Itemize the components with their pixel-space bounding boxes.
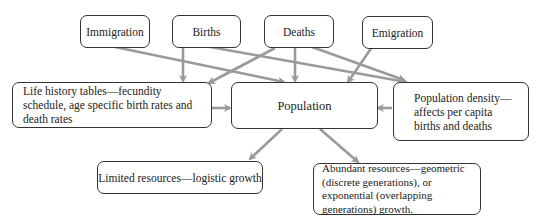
node-label: Limited resources—logistic growth (98, 171, 262, 185)
edge-population-abundant (320, 129, 358, 162)
node-emigration: Emigration (362, 16, 433, 49)
node-deaths: Deaths (264, 15, 334, 48)
edge-population-limited (250, 129, 282, 159)
edge-births-density (210, 47, 406, 82)
node-label: Emigration (372, 26, 424, 40)
edge-immigration-population (115, 47, 284, 82)
node-immigration: Immigration (80, 15, 150, 48)
node-label: Abundant resources—geometric (discrete g… (322, 162, 472, 216)
node-label: Deaths (283, 25, 315, 39)
node-births: Births (172, 15, 241, 48)
node-label: Births (192, 25, 220, 39)
edge-deaths-density (312, 47, 404, 80)
node-limited-resources: Limited resources—logistic growth (97, 161, 263, 194)
node-life-history-tables: Life history tables—fecundity schedule, … (12, 82, 212, 128)
node-label: Immigration (86, 25, 144, 39)
node-population-density: Population density—affects per capita bi… (393, 82, 529, 141)
edge-emigration-population (348, 47, 372, 82)
node-population: Population (231, 82, 378, 129)
node-label: Life history tables—fecundity schedule, … (23, 84, 201, 126)
node-abundant-resources: Abundant resources—geometric (discrete g… (313, 163, 481, 215)
node-label: Population density—affects per capita bi… (414, 91, 520, 133)
node-label: Population (277, 99, 331, 113)
